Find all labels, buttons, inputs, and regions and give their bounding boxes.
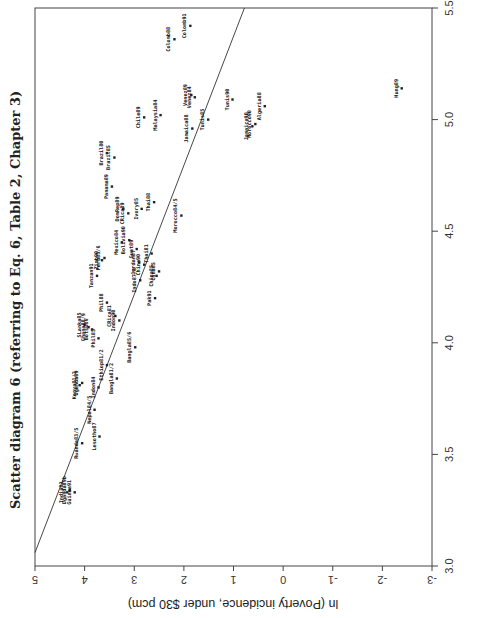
point-marker xyxy=(127,212,129,214)
data-point: Tunis85 xyxy=(199,109,209,131)
point-label: Rwanda83/5 xyxy=(73,428,79,459)
point-marker xyxy=(96,275,98,277)
point-label: Hung89 xyxy=(393,79,400,98)
y-tick-label: 1 xyxy=(230,574,236,586)
point-label: Bangla81/2 xyxy=(108,363,115,394)
data-point: Nepal84/5 xyxy=(86,396,96,424)
y-tick-label: 4 xyxy=(82,574,88,586)
point-marker xyxy=(264,105,266,107)
point-label: Jamaica88 xyxy=(183,114,189,142)
data-point: Brazil85 xyxy=(105,145,115,170)
point-marker xyxy=(93,409,95,411)
point-marker xyxy=(143,116,145,118)
data-point: Colomb91 xyxy=(181,13,191,38)
chart-figure: Scatter diagram 6 (referring to Eq. 6, T… xyxy=(0,0,478,618)
data-point: Bangla85/6 xyxy=(126,332,136,363)
plot-frame xyxy=(35,8,432,566)
data-point: Tunis90 xyxy=(224,89,234,111)
data-point: Ethiop81/2 xyxy=(98,350,108,381)
point-label: Colomb88 xyxy=(165,27,171,52)
point-marker xyxy=(81,382,83,384)
point-label: Morocco84/5 xyxy=(172,198,178,232)
point-label: Thai88 xyxy=(145,193,151,212)
point-label: Bangla85/6 xyxy=(126,332,133,363)
data-point: Ivory85 xyxy=(133,198,143,220)
point-marker xyxy=(159,114,161,116)
point-marker xyxy=(191,127,193,129)
point-label: Tunis85 xyxy=(199,109,205,131)
y-tick-label: -3 xyxy=(427,574,437,586)
point-marker xyxy=(98,435,100,437)
x-tick-label: 5.0 xyxy=(443,112,455,127)
x-axis-ticks: 3.03.54.04.55.05.5 xyxy=(432,0,455,573)
point-marker xyxy=(101,259,103,261)
point-marker xyxy=(116,377,118,379)
data-point: Algeria88 xyxy=(256,92,266,120)
data-point: Panama89 xyxy=(103,174,113,199)
point-marker xyxy=(207,118,209,120)
y-tick-label: 5 xyxy=(32,574,38,586)
x-tick-label: 3.5 xyxy=(443,447,455,462)
point-marker xyxy=(153,201,155,203)
point-label: Phil85 xyxy=(90,329,96,348)
data-point: Morocco84/5 xyxy=(172,198,182,232)
x-tick-label: 5.5 xyxy=(443,0,455,15)
y-axis-ticks: 543210-1-2-3 xyxy=(32,566,437,586)
point-label: Zimb90 xyxy=(93,251,99,270)
point-label: Thai81 xyxy=(143,244,149,263)
point-label: Venez84 xyxy=(186,86,192,108)
data-point: Rwanda83/5 xyxy=(73,428,83,459)
point-label: Indo87/8 xyxy=(131,268,137,293)
data-point: Thai81 xyxy=(143,244,153,263)
point-marker xyxy=(401,87,403,89)
point-label: Tunis90 xyxy=(224,89,230,111)
point-label: Panama89 xyxy=(103,174,109,199)
point-marker xyxy=(158,270,160,272)
data-point: Pak91 xyxy=(146,290,156,306)
point-marker xyxy=(134,346,136,348)
y-tick-label: 0 xyxy=(280,574,286,586)
point-marker xyxy=(139,279,141,281)
point-marker xyxy=(231,98,233,100)
y-tick-label: 2 xyxy=(181,574,187,586)
point-marker xyxy=(254,123,256,125)
point-marker xyxy=(118,319,120,321)
point-marker xyxy=(111,185,113,187)
y-tick-label: -2 xyxy=(377,574,387,586)
point-marker xyxy=(106,301,108,303)
point-label: India83 xyxy=(58,481,64,503)
data-point: Bangla81/2 xyxy=(108,363,118,394)
data-points: Colomb91Colomb88Hung89Venez89Venez84Tuni… xyxy=(58,13,403,504)
point-label: Chile89 xyxy=(135,106,141,128)
point-label: Algeria88 xyxy=(256,92,263,120)
point-marker xyxy=(251,125,253,127)
point-label: Lesotho87 xyxy=(91,422,97,450)
point-label: Bolivia90 xyxy=(120,226,126,254)
data-point: Chna85 xyxy=(150,262,160,281)
point-marker xyxy=(173,38,175,40)
point-label: Ivory85 xyxy=(133,198,140,220)
point-label: Indon90 xyxy=(110,310,116,332)
data-point: Zimb90 xyxy=(93,251,103,270)
point-label: Nepal84/5 xyxy=(86,396,93,424)
point-label: Botsw86 xyxy=(83,318,89,340)
data-point: Venez84 xyxy=(186,86,196,108)
point-marker xyxy=(154,297,156,299)
data-point: CRica89 xyxy=(119,202,129,224)
point-label: Guinea91 xyxy=(66,480,72,505)
point-label: Ethiop81/2 xyxy=(98,350,105,381)
y-axis-label: ln (Poverty incidence, under $30 pcm) xyxy=(128,597,339,611)
point-label: Brazil80 xyxy=(98,141,104,166)
scatter-plot: Scatter diagram 6 (referring to Eq. 6, T… xyxy=(0,0,478,618)
point-marker xyxy=(81,442,83,444)
y-tick-label: 3 xyxy=(131,574,137,586)
point-marker xyxy=(103,257,105,259)
point-marker xyxy=(194,96,196,98)
point-label: Malaysia84 xyxy=(152,100,159,131)
point-marker xyxy=(150,252,152,254)
point-marker xyxy=(189,25,191,27)
x-tick-label: 4.5 xyxy=(443,224,455,239)
data-point: Colomb88 xyxy=(165,27,175,52)
point-marker xyxy=(136,248,138,250)
data-point: Malaysia84 xyxy=(152,100,162,131)
